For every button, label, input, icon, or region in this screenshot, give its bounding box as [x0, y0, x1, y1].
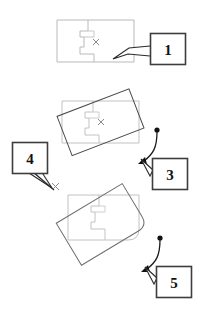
callout-3-leader [141, 159, 153, 176]
callout-4[interactable]: 4 [13, 143, 48, 174]
shape-inner-step-ghost-b [89, 112, 99, 118]
base-point-marker-stage-1 [93, 39, 99, 45]
rotation-arrow-shaft-middle [144, 132, 157, 161]
shape-inner-step-original-b [84, 31, 94, 37]
illustration-canvas: 1 3 [0, 0, 207, 309]
callout-1-label: 1 [164, 42, 172, 58]
rotation-arrow-shaft-bottom [147, 240, 160, 269]
shape-inner-step-ghost [85, 101, 99, 143]
stage-3-ghost-shape [68, 195, 139, 240]
callout-5-leader [145, 267, 157, 284]
callout-4-label: 4 [26, 151, 34, 167]
rotation-arrow-dot-bottom [157, 235, 162, 240]
callout-1[interactable]: 1 [151, 34, 186, 65]
shape-inner-step-ghost-bottom [91, 195, 105, 240]
illustration-svg: 1 3 [0, 0, 207, 309]
base-point-marker-target [52, 183, 59, 190]
rotation-arrow-dot-middle [154, 127, 159, 132]
base-point-marker-stage-2 [98, 119, 104, 125]
stage-2-ghost-shape [62, 101, 139, 143]
shape-outline-rotated-stage-3 [56, 184, 147, 266]
shape-inner-step-original [80, 20, 94, 62]
stage-3-rotated-result [56, 184, 147, 266]
callout-5-label: 5 [170, 275, 178, 291]
shape-outline-ghost-bottom [68, 195, 139, 240]
callout-3-label: 3 [166, 167, 174, 183]
callout-5[interactable]: 5 [157, 267, 192, 298]
callout-1-leader [113, 46, 150, 59]
shape-inner-step-ghost-bottom-b [95, 206, 105, 212]
callout-3[interactable]: 3 [153, 159, 188, 190]
